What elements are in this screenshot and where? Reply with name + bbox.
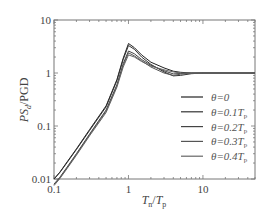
y-tick-label: 0.01 [32, 173, 51, 185]
y-tick-label: 1 [46, 67, 52, 79]
legend-label: θ=0.1Tp [211, 106, 248, 120]
x-tick-label: 1 [126, 183, 132, 195]
legend: θ=0θ=0.1Tpθ=0.2Tpθ=0.3Tpθ=0.4Tp [181, 91, 248, 164]
y-tick-label: 0.1 [37, 120, 51, 132]
chart: 0.11100.010.1110 θ=0θ=0.1Tpθ=0.2Tpθ=0.3T… [0, 0, 271, 224]
y-tick-label: 10 [40, 14, 52, 26]
legend-label: θ=0 [211, 91, 230, 103]
legend-label: θ=0.2Tp [211, 121, 248, 135]
legend-label: θ=0.4Tp [211, 150, 248, 164]
tick-labels: 0.11100.010.1110 [32, 14, 209, 195]
y-axis-label: PSd/PGD [17, 77, 33, 123]
x-axis-label: Tn/Tp [142, 193, 167, 209]
x-tick-label: 10 [197, 183, 209, 195]
legend-label: θ=0.3Tp [211, 135, 248, 149]
